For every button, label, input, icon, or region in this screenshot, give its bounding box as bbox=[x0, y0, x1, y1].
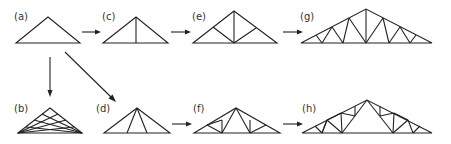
label-f: (f) bbox=[193, 103, 204, 114]
arrow-a-to-c bbox=[82, 30, 101, 35]
arrow-a-to-b bbox=[48, 57, 53, 97]
label-e: (e) bbox=[192, 11, 206, 22]
arrow-a-to-d bbox=[65, 52, 116, 102]
arrow-e-to-g bbox=[283, 30, 303, 35]
label-c: (c) bbox=[102, 11, 115, 22]
label-a: (a) bbox=[14, 11, 28, 22]
truss-f bbox=[194, 108, 280, 133]
label-b: (b) bbox=[14, 103, 28, 114]
label-d: (d) bbox=[96, 103, 110, 114]
arrow-f-to-h bbox=[283, 122, 303, 127]
arrow-d-to-f bbox=[172, 122, 192, 127]
label-g: (g) bbox=[300, 11, 314, 22]
truss-d bbox=[104, 108, 170, 133]
truss-evolution-diagram: (a) (b) (c) (d) (e) (f) (g) (h) bbox=[0, 0, 451, 144]
truss-g bbox=[301, 9, 432, 43]
truss-h bbox=[302, 100, 432, 133]
label-h: (h) bbox=[302, 103, 316, 114]
arrow-c-to-e bbox=[171, 30, 191, 35]
